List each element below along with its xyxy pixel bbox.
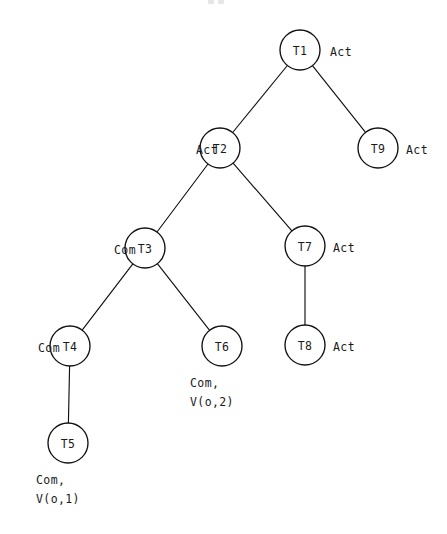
node-label-t6: T6 [215,340,229,354]
node-t8[interactable]: T8 [285,325,325,365]
edge-t3-t6 [157,264,209,331]
node-label-t9: T9 [371,142,385,156]
node-t9[interactable]: T9 [358,128,398,168]
side-label-t9: Act [406,141,428,159]
node-label-t5: T5 [61,437,75,451]
node-label-t7: T7 [298,240,312,254]
below-label-t5: Com,V(o,1) [36,471,80,509]
node-label-t1: T1 [293,44,307,58]
below-label-line2-t5: V(o,1) [36,490,80,509]
side-label-t3: Com [66,241,136,259]
edge-t2-t7 [233,163,292,231]
node-label-t8: T8 [298,339,312,353]
side-label-t2: Act [148,141,218,159]
side-label-t4: Com [0,339,60,357]
node-label-t3: T3 [138,242,152,256]
node-t6[interactable]: T6 [202,326,242,366]
node-t5[interactable]: T5 [48,423,88,463]
edge-t4-t5 [68,366,69,423]
edge-t1-t9 [312,66,365,133]
tree-canvas: T1T2T9T3T7T4T6T8T5 [0,0,447,534]
node-t7[interactable]: T7 [285,226,325,266]
edge-t3-t4 [82,264,133,330]
node-t1[interactable]: T1 [280,30,320,70]
below-label-line1-t6: Com, [190,374,234,393]
node-label-t4: T4 [63,340,77,354]
below-label-line1-t5: Com, [36,471,80,490]
below-label-t6: Com,V(o,2) [190,374,234,412]
below-label-line2-t6: V(o,2) [190,393,234,412]
edge-t2-t3 [157,164,208,232]
side-label-t7: Act [333,239,355,257]
tree-diagram: T1T2T9T3T7T4T6T8T5 ActActActComActComAct… [0,0,447,534]
edge-t1-t2 [233,65,288,132]
side-label-t8: Act [333,338,355,356]
side-label-t1: Act [330,43,352,61]
